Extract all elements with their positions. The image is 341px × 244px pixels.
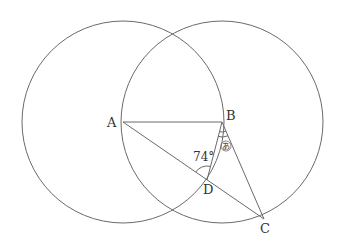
point-label-b: B (226, 108, 236, 123)
point-label-d: D (203, 182, 213, 197)
geometry-diagram: A B C D 74° あ (0, 0, 341, 244)
point-label-c: C (260, 221, 270, 236)
angle-label-d: 74° (193, 150, 214, 164)
angle-arc-b-inner (220, 131, 227, 132)
angle-label-b: あ (222, 142, 230, 151)
point-label-a: A (106, 115, 117, 130)
angle-arc-d (196, 166, 211, 172)
